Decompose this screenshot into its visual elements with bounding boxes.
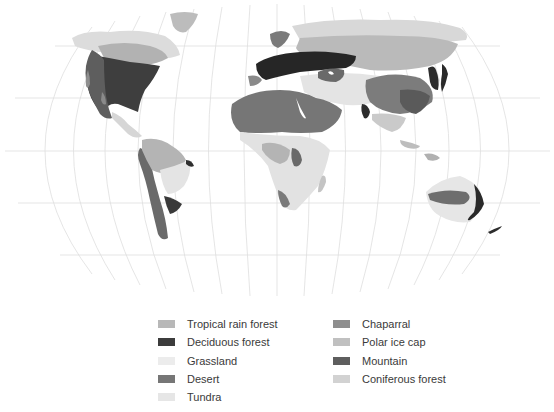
swatch-tropical-rain-forest xyxy=(158,320,175,328)
se-asia-rainforest xyxy=(372,114,406,133)
legend-label: Tundra xyxy=(187,391,221,403)
new-zealand xyxy=(488,226,502,234)
legend-label: Coniferous forest xyxy=(362,373,446,385)
india-mountain xyxy=(361,104,370,118)
indonesia xyxy=(400,140,420,149)
legend-label: Grassland xyxy=(187,355,237,367)
world-biome-map xyxy=(0,0,554,300)
swatch-deciduous-forest xyxy=(158,338,175,346)
swatch-coniferous-forest xyxy=(333,375,350,383)
legend-label: Chaparral xyxy=(362,318,410,330)
swatch-polar-ice-cap xyxy=(333,338,350,346)
legend-label: Mountain xyxy=(362,355,407,367)
sa-deciduous-south xyxy=(164,196,182,214)
legend-item-tropical-rain-forest: Tropical rain forest xyxy=(158,315,278,333)
legend-item-chaparral: Chaparral xyxy=(333,315,446,333)
east-asia-deciduous xyxy=(428,66,439,90)
legend-item-mountain: Mountain xyxy=(333,352,446,370)
japan xyxy=(441,64,448,92)
scandinavia xyxy=(270,31,290,48)
legend-label: Tropical rain forest xyxy=(187,318,278,330)
legend-item-deciduous-forest: Deciduous forest xyxy=(158,333,278,351)
australia xyxy=(426,176,502,234)
swatch-tundra xyxy=(158,393,175,401)
swatch-chaparral xyxy=(333,320,350,328)
legend-label: Polar ice cap xyxy=(362,336,426,348)
south-america xyxy=(138,139,194,239)
iberia xyxy=(248,76,262,87)
legend-label: Deciduous forest xyxy=(187,336,270,348)
swatch-mountain xyxy=(333,357,350,365)
legend-left-column: Tropical rain forest Deciduous forest Gr… xyxy=(158,315,278,406)
swatch-desert xyxy=(158,375,175,383)
legend-item-coniferous-forest: Coniferous forest xyxy=(333,370,446,388)
central-america xyxy=(112,112,142,138)
new-guinea xyxy=(424,154,440,161)
legend-item-polar-ice-cap: Polar ice cap xyxy=(333,333,446,351)
greenland xyxy=(170,12,198,32)
legend-label: Desert xyxy=(187,373,219,385)
swatch-grassland xyxy=(158,357,175,365)
legend-right-column: Chaparral Polar ice cap Mountain Conifer… xyxy=(333,315,446,388)
legend-item-tundra: Tundra xyxy=(158,388,278,406)
legend-item-grassland: Grassland xyxy=(158,352,278,370)
legend-item-desert: Desert xyxy=(158,370,278,388)
